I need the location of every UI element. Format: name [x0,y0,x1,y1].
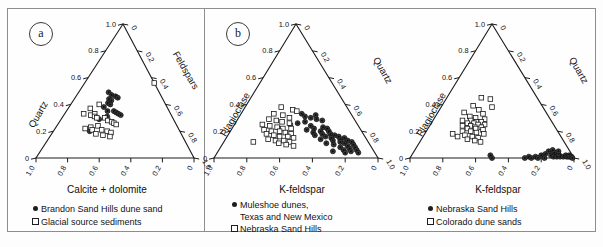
svg-text:0: 0 [302,24,312,32]
legend-label: Muleshoe dunes, Texas and New Mexico [240,200,333,223]
svg-text:Feldspars: Feldspars [171,49,202,91]
filled-circle-icon [30,204,41,216]
svg-text:0.8: 0.8 [88,46,98,55]
panel-c-plot: 00.20.40.60.81.000.20.40.60.81.000.20.40… [400,8,596,232]
svg-text:1.0: 1.0 [106,20,116,29]
panel-b-legend: Muleshoe dunes, Texas and New Mexico Neb… [229,200,333,237]
svg-text:0.6: 0.6 [172,104,185,117]
panel-a-plot: 00.20.40.60.81.000.20.40.60.81.000.20.40… [7,8,204,232]
panel-c: 00.20.40.60.81.000.20.40.60.81.000.20.40… [400,8,596,232]
svg-text:0.8: 0.8 [262,46,272,55]
svg-text:1.0: 1.0 [202,164,215,177]
svg-text:0.2: 0.2 [319,51,332,64]
svg-text:0.8: 0.8 [235,164,248,177]
svg-text:0.6: 0.6 [442,73,452,82]
panel-b: b 00.20.40.60.81.000.20.40.60.81.000.20.… [204,8,400,232]
open-square-icon [229,224,240,236]
svg-text:0.4: 0.4 [300,164,313,177]
svg-text:0.6: 0.6 [87,164,100,177]
svg-text:0.2: 0.2 [150,164,163,177]
svg-text:0.6: 0.6 [351,104,364,117]
svg-text:1.0: 1.0 [475,20,485,29]
svg-text:1.0: 1.0 [384,158,397,171]
panel-b-bottom-axis-label: K-feldspar [212,184,392,195]
filled-circle-icon [425,204,436,216]
ternary-diagram-figure: a 00.20.40.60.81.000.20.40.60.81.000.20.… [0,0,603,247]
svg-text:0.4: 0.4 [531,77,544,90]
legend-item: Glacial source sediments [30,217,163,229]
svg-text:0.6: 0.6 [463,164,476,177]
panel-a: a 00.20.40.60.81.000.20.40.60.81.000.20.… [7,8,204,232]
legend-label: Brandon Sand Hills dune sand [41,204,163,216]
svg-text:0.2: 0.2 [529,164,542,177]
svg-text:0: 0 [399,154,403,163]
svg-text:0: 0 [25,154,29,163]
svg-text:0.8: 0.8 [55,164,68,177]
svg-text:0: 0 [498,24,508,32]
svg-text:0: 0 [369,164,379,172]
svg-text:0.8: 0.8 [368,131,381,144]
open-square-icon [30,217,41,229]
panel-b-plot: 00.20.40.60.81.000.20.40.60.81.000.20.40… [204,8,400,232]
svg-text:0.4: 0.4 [158,77,171,90]
panel-a-legend: Brandon Sand Hills dune sand Glacial sou… [30,204,163,229]
svg-text:Plagioclase: Plagioclase [414,90,448,138]
svg-text:0.4: 0.4 [119,164,132,177]
legend-item: Nebraska Sand Hills [425,204,522,216]
svg-text:0.8: 0.8 [564,131,577,144]
svg-text:1.0: 1.0 [24,164,37,177]
panel-c-bottom-axis-label: K-feldspar [408,184,588,195]
svg-text:0.6: 0.6 [547,104,560,117]
svg-text:0.6: 0.6 [246,73,256,82]
legend-item: Brandon Sand Hills dune sand [30,204,163,216]
svg-text:0.8: 0.8 [186,131,199,144]
legend-label: Glacial source sediments [41,217,142,229]
svg-text:Plagioclase: Plagioclase [218,90,252,138]
legend-label: Nebraska Sand Hills [436,204,518,216]
svg-text:0.8: 0.8 [458,46,468,55]
svg-text:Quartz: Quartz [371,55,395,86]
svg-text:1.0: 1.0 [398,164,411,177]
legend-item: Muleshoe dunes, Texas and New Mexico [229,200,333,223]
svg-text:0.6: 0.6 [267,164,280,177]
legend-item: Nebraska Sand Hills [229,224,333,236]
svg-text:0: 0 [203,154,207,163]
legend-item: Colorado dune sands [425,217,522,229]
filled-circle-icon [229,200,240,212]
svg-text:0.6: 0.6 [71,73,81,82]
svg-text:0.2: 0.2 [333,164,346,177]
svg-text:0: 0 [185,164,195,172]
svg-text:0.4: 0.4 [496,164,509,177]
svg-text:Quartz: Quartz [26,99,50,130]
panel-a-bottom-axis-label: Calcite + dolomite [17,184,197,195]
svg-text:0.2: 0.2 [515,51,528,64]
svg-text:0.4: 0.4 [54,100,64,109]
legend-label: Nebraska Sand Hills [240,224,322,236]
open-square-icon [425,217,436,229]
svg-text:0: 0 [565,164,575,172]
svg-text:0.2: 0.2 [143,51,156,64]
svg-text:1.0: 1.0 [580,158,593,171]
svg-text:Quartz: Quartz [567,55,591,86]
svg-text:0.2: 0.2 [36,127,46,136]
svg-text:0: 0 [129,24,139,32]
svg-text:0.8: 0.8 [431,164,444,177]
panel-c-legend: Nebraska Sand Hills Colorado dune sands [425,204,522,229]
legend-label: Colorado dune sands [436,217,522,229]
svg-text:1.0: 1.0 [279,20,289,29]
svg-text:0.4: 0.4 [335,77,348,90]
